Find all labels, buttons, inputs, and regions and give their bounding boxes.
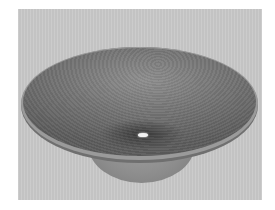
product-photo	[18, 9, 262, 200]
drain-hole	[138, 133, 148, 137]
wood-grain-texture	[23, 48, 256, 156]
bowl-interior	[23, 48, 256, 156]
